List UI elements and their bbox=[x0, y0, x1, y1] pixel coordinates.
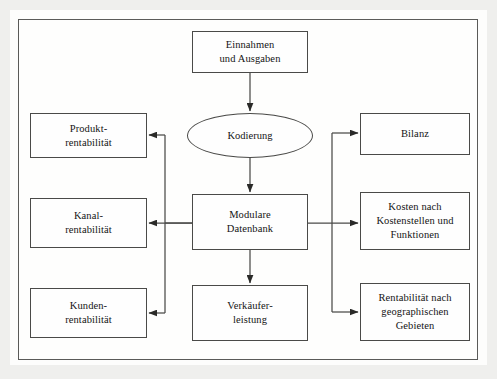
node-label: Kanal- rentabilität bbox=[65, 209, 112, 237]
node-label: Kunden- rentabilität bbox=[65, 299, 112, 327]
node-label: Modulare Datenbank bbox=[227, 208, 273, 236]
node-label: Einnahmen und Ausgaben bbox=[220, 38, 281, 66]
node-einnahmen-und-ausgaben: Einnahmen und Ausgaben bbox=[192, 31, 308, 73]
node-kodierung: Kodierung bbox=[187, 113, 313, 158]
diagram-canvas: Einnahmen und Ausgaben Kodierung Modular… bbox=[0, 0, 497, 379]
node-produktrentabilitaet: Produkt- rentabilität bbox=[30, 113, 147, 158]
node-bilanz: Bilanz bbox=[360, 113, 470, 155]
node-kosten-nach-kostenstellen: Kosten nach Kostenstellen und Funktionen bbox=[360, 192, 470, 250]
node-kundenrentabilitaet: Kunden- rentabilität bbox=[30, 288, 147, 338]
node-label: Rentabilität nach geographischen Gebiete… bbox=[378, 291, 451, 333]
node-label: Kosten nach Kostenstellen und Funktionen bbox=[376, 200, 453, 242]
node-kanalrentabilitaet: Kanal- rentabilität bbox=[30, 198, 147, 248]
node-verkaeuferleistung: Verkäufer- leistung bbox=[192, 285, 308, 341]
node-label: Produkt- rentabilität bbox=[65, 122, 112, 150]
node-rentabilitaet-nach-gebieten: Rentabilität nach geographischen Gebiete… bbox=[360, 283, 470, 341]
node-label: Bilanz bbox=[401, 127, 429, 141]
node-modulare-datenbank: Modulare Datenbank bbox=[192, 194, 308, 250]
node-label: Verkäufer- leistung bbox=[227, 299, 273, 327]
node-label: Kodierung bbox=[228, 129, 273, 143]
